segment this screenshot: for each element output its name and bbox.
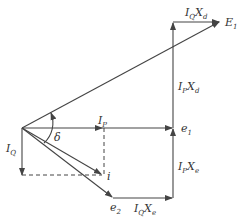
label-IP: IP xyxy=(97,114,107,129)
label-IQXe: IQXe xyxy=(133,202,156,217)
label-IQ: IQ xyxy=(5,142,16,157)
label-e2: e2 xyxy=(110,201,122,216)
label-i: i xyxy=(107,170,111,183)
label-IPXd: IPXd xyxy=(177,80,200,95)
label-IPXe: IPXe xyxy=(177,160,199,175)
label-e1: e1 xyxy=(181,122,192,137)
e2-phasor xyxy=(22,128,112,197)
label-IQXd: IQXd xyxy=(184,6,208,21)
label-E1: E1 xyxy=(224,16,238,31)
i-phasor xyxy=(22,128,101,174)
E1-phasor xyxy=(22,22,219,128)
label-delta: δ xyxy=(54,131,61,144)
phasor-diagram: E1 IQXd IPXd IP e1 δ IQ i IPXe e2 IQXe xyxy=(0,0,245,221)
